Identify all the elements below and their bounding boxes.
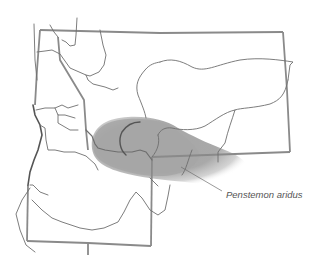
oregon-west-border xyxy=(27,185,28,241)
idaho-east-border xyxy=(151,157,152,246)
species-range-area xyxy=(92,117,247,184)
columbia-river xyxy=(28,105,42,185)
southern-border xyxy=(27,241,151,246)
distribution-map: Penstemon aridus xyxy=(0,0,320,269)
species-label: Penstemon aridus xyxy=(226,189,303,200)
idaho-west-border xyxy=(58,37,88,150)
